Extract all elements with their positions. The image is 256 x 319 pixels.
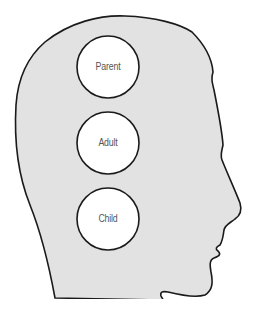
head-silhouette <box>0 0 256 319</box>
diagram-canvas: Parent Adult Child <box>0 0 256 319</box>
adult-label: Adult <box>80 137 136 148</box>
child-label: Child <box>80 213 136 224</box>
parent-label: Parent <box>80 61 136 72</box>
